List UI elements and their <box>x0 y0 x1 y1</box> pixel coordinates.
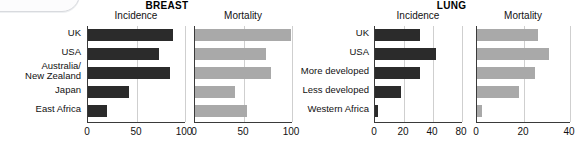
panel-title-incidence: Incidence <box>374 10 462 21</box>
category-label: Australia/ New Zealand <box>25 61 81 81</box>
chart-group-breast: BREAST UK USA Australia/ New Zealand Jap… <box>0 0 292 147</box>
x-tick-label: 0 <box>191 126 197 137</box>
plot-area <box>476 26 570 123</box>
category-label: East Africa <box>36 104 81 114</box>
bar <box>477 29 538 41</box>
x-tick-label: 40 <box>563 126 574 137</box>
plot-area <box>87 26 185 123</box>
category-label: UK <box>68 28 81 38</box>
category-label: UK <box>289 28 369 38</box>
x-tick-label: 50 <box>130 126 141 137</box>
x-tick-label: 0 <box>473 126 479 137</box>
category-label: More developed <box>289 66 369 76</box>
x-tick-label: 20 <box>517 126 528 137</box>
plot-area <box>374 26 462 123</box>
bar <box>477 86 519 98</box>
bar <box>477 67 535 79</box>
bar <box>477 48 549 60</box>
category-label: Less developed <box>289 85 369 95</box>
gridline <box>433 26 434 122</box>
bar <box>195 86 235 98</box>
x-tick-label: 100 <box>176 126 193 137</box>
bar <box>375 29 420 41</box>
category-label: USA <box>61 47 81 57</box>
x-tick-label: 80 <box>455 126 466 137</box>
bar <box>375 67 420 79</box>
category-label: USA <box>289 47 369 57</box>
x-tick-label: 40 <box>426 126 437 137</box>
gridline <box>462 26 463 122</box>
plot-area <box>194 26 292 123</box>
category-label: Western Africa <box>289 104 369 114</box>
category-labels-breast: UK USA Australia/ New Zealand Japan East… <box>0 26 84 123</box>
bar <box>375 48 436 60</box>
bar <box>88 86 129 98</box>
bar <box>195 67 271 79</box>
bar <box>88 48 159 60</box>
bar <box>88 29 173 41</box>
chart-group-lung: LUNG UK USA More developed Less develope… <box>292 0 585 147</box>
category-labels-lung: UK USA More developed Less developed Wes… <box>292 26 372 123</box>
bar <box>195 48 266 60</box>
panel-title-mortality: Mortality <box>194 10 292 21</box>
x-tick-label: 0 <box>371 126 377 137</box>
category-label: Japan <box>55 85 81 95</box>
gridline <box>185 26 186 122</box>
x-tick-label: 20 <box>397 126 408 137</box>
bar <box>375 86 401 98</box>
x-tick-label: 50 <box>237 126 248 137</box>
panel-title-mortality: Mortality <box>476 10 570 21</box>
bar <box>477 105 482 117</box>
bar <box>88 105 107 117</box>
x-tick-label: 0 <box>84 126 90 137</box>
bar <box>88 67 170 79</box>
bar <box>195 29 291 41</box>
bar <box>195 105 247 117</box>
panel-title-incidence: Incidence <box>87 10 185 21</box>
gridline <box>570 26 571 122</box>
bar <box>375 105 378 117</box>
figure-multi-panel-bar-charts: BREAST UK USA Australia/ New Zealand Jap… <box>0 0 585 147</box>
